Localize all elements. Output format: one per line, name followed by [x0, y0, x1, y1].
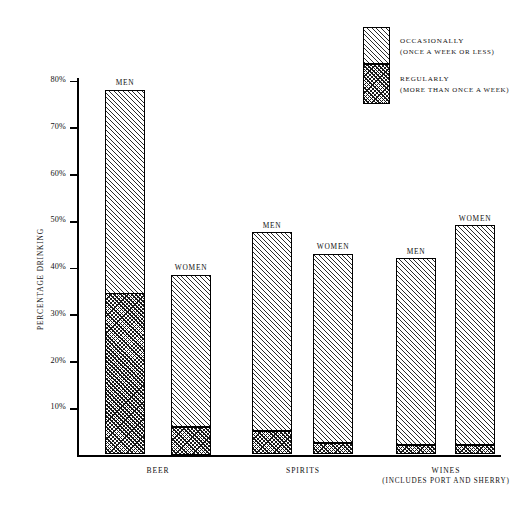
y-tick-label-40: 40% [40, 262, 66, 271]
legend: OCCASIONALLY (ONCE A WEEK OR LESS) REGUL… [363, 27, 521, 107]
y-tick-30 [70, 314, 77, 316]
bar-label-beer-women: WOMEN [169, 263, 213, 272]
y-tick-label-50: 50% [40, 215, 66, 224]
y-tick-label-70: 70% [40, 122, 66, 131]
y-tick-60 [70, 174, 77, 176]
y-tick-70 [70, 127, 77, 129]
bar-spirits-women-occasionally [313, 254, 353, 443]
legend-swatch-regularly [363, 64, 390, 104]
y-tick-label-20: 20% [40, 356, 66, 365]
x-axis-line [77, 455, 501, 457]
drinking-percentage-bar-chart: PERCENTAGE DRINKING 80% 70% 60% 50% 40% … [0, 0, 524, 505]
y-tick-40 [70, 268, 77, 270]
bar-beer-men-regularly [105, 293, 145, 454]
y-tick-label-30: 30% [40, 309, 66, 318]
bar-wines-women-occasionally [455, 225, 495, 445]
bar-spirits-women-regularly [313, 443, 353, 455]
bar-label-wines-women: WOMEN [453, 214, 497, 223]
bar-wines-women-regularly [455, 445, 495, 454]
legend-label-occasionally: OCCASIONALLY [400, 37, 464, 45]
y-tick-20 [70, 361, 77, 363]
bar-label-beer-men: MEN [105, 78, 145, 87]
legend-detail-regularly: (MORE THAN ONCE A WEEK) [400, 86, 509, 93]
category-label-spirits: SPIRITS [278, 466, 328, 475]
y-tick-80 [70, 81, 77, 83]
bar-wines-men-occasionally [396, 258, 436, 445]
bar-beer-women-occasionally [171, 275, 211, 427]
bar-spirits-men-regularly [252, 431, 292, 454]
legend-detail-occasionally: (ONCE A WEEK OR LESS) [400, 48, 495, 55]
legend-label-regularly: REGULARLY [400, 75, 449, 83]
bar-label-spirits-men: MEN [252, 221, 292, 230]
category-sublabel-wines: (INCLUDES PORT AND SHERRY) [370, 477, 522, 485]
bar-label-wines-men: MEN [396, 247, 436, 256]
y-tick-label-80: 80% [40, 75, 66, 84]
bar-beer-women-regularly [171, 427, 211, 455]
category-label-wines: WINES [421, 466, 471, 475]
bar-label-spirits-women: WOMEN [311, 242, 355, 251]
bar-beer-men-occasionally [105, 90, 145, 295]
y-tick-label-60: 60% [40, 169, 66, 178]
category-label-beer: BEER [133, 466, 183, 475]
y-axis-line [77, 78, 79, 457]
bar-wines-men-regularly [396, 445, 436, 454]
legend-swatch-occasionally [363, 27, 390, 64]
y-tick-10 [70, 408, 77, 410]
y-tick-label-10: 10% [40, 402, 66, 411]
y-tick-50 [70, 221, 77, 223]
bar-spirits-men-occasionally [252, 232, 292, 431]
